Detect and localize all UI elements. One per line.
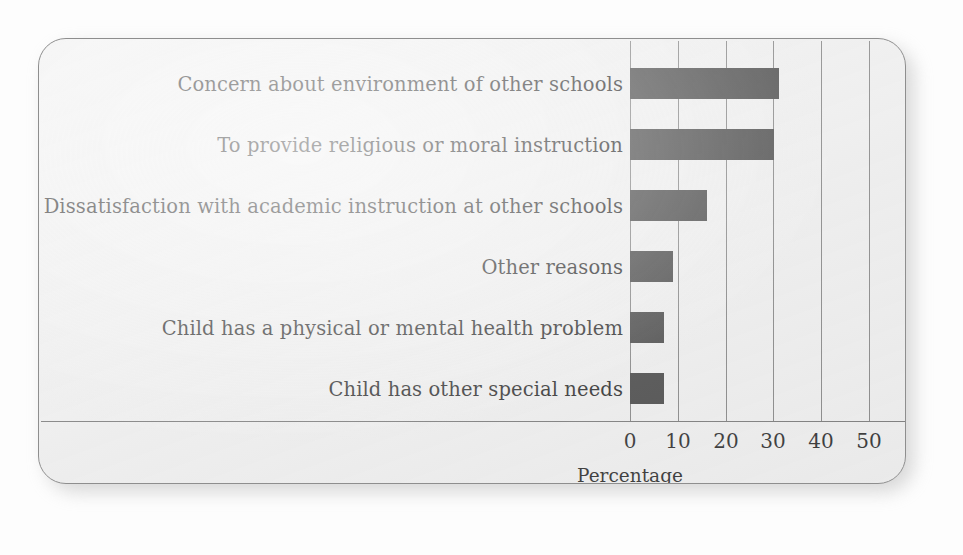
- bar: [630, 312, 664, 343]
- category-label: Child has other special needs: [329, 377, 624, 400]
- plot-area: Concern about environment of other schoo…: [39, 39, 906, 484]
- category-label: To provide religious or moral instructio…: [217, 133, 623, 156]
- category-label: Other reasons: [481, 255, 623, 278]
- bar: [630, 129, 774, 160]
- x-tick-label: 50: [839, 429, 899, 453]
- bar: [630, 373, 664, 404]
- bar: [630, 190, 707, 221]
- bar: [630, 251, 673, 282]
- x-tick-label: 10: [648, 429, 708, 453]
- category-label: Concern about environment of other schoo…: [177, 72, 623, 95]
- chart-panel: Concern about environment of other schoo…: [38, 38, 906, 484]
- chart-row: Dissatisfaction with academic instructio…: [39, 190, 906, 221]
- chart-row: Concern about environment of other schoo…: [39, 68, 906, 99]
- x-tick-label: 40: [791, 429, 851, 453]
- x-axis-title: Percentage: [480, 465, 780, 484]
- category-label: Dissatisfaction with academic instructio…: [44, 194, 623, 217]
- x-axis-line: [41, 421, 905, 422]
- chart-row: To provide religious or moral instructio…: [39, 129, 906, 160]
- figure-page: Concern about environment of other schoo…: [0, 0, 963, 555]
- x-tick-label: 0: [600, 429, 660, 453]
- chart-row: Child has other special needs: [39, 373, 906, 404]
- chart-row: Child has a physical or mental health pr…: [39, 312, 906, 343]
- category-label: Child has a physical or mental health pr…: [162, 316, 623, 339]
- x-tick-label: 20: [696, 429, 756, 453]
- x-tick-label: 30: [743, 429, 803, 453]
- bar: [630, 68, 779, 99]
- chart-row: Other reasons: [39, 251, 906, 282]
